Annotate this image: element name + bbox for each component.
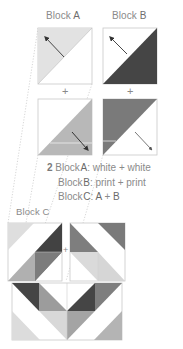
step-line-2-word: Block <box>58 177 82 188</box>
block-b-top-square <box>103 28 157 84</box>
plus-sign-c: + <box>63 246 68 255</box>
block-a-bottom-square <box>38 99 92 155</box>
step-line-2: Block B: print + print <box>58 177 146 188</box>
plus-sign-b: + <box>127 86 133 97</box>
step-line-1-word: Block <box>55 162 79 173</box>
quilt-diagram <box>0 0 183 349</box>
block-c-right-piece <box>70 223 125 281</box>
step-line-3-b: B <box>113 191 120 202</box>
block-b-bottom-square <box>103 99 157 155</box>
step-line-2-rest: : print + print <box>90 177 146 188</box>
block-c-header: Block C <box>16 206 49 217</box>
block-c-assembled <box>12 283 122 340</box>
step-line-2-letter: B <box>83 177 90 188</box>
step-line-1-rest: : white + white <box>87 162 151 173</box>
step-line-3: Block C: A + B <box>58 191 120 202</box>
block-c-header-letter: C <box>42 206 49 217</box>
block-a-top-square <box>38 28 92 84</box>
step-line-1: 2 Block A: white + white <box>47 162 151 173</box>
block-c-header-word: Block <box>16 206 40 217</box>
step-line-3-word: Block <box>58 191 82 202</box>
block-c-left-piece <box>8 223 62 281</box>
plus-sign-a: + <box>62 86 68 97</box>
step-line-3-plus: + <box>102 191 113 202</box>
step-number: 2 <box>47 162 53 173</box>
